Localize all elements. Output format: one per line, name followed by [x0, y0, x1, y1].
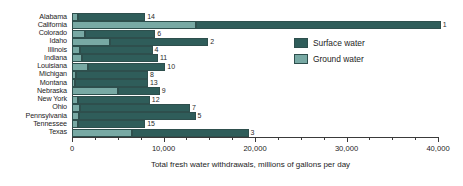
- legend-item-ground-water: Ground water: [294, 52, 424, 65]
- x-tick-major: [72, 137, 73, 142]
- x-tick-minor: [95, 137, 96, 140]
- legend-swatch-ground-water-icon: [294, 54, 308, 64]
- x-tick-minor: [141, 137, 142, 140]
- bar-value-label: 3: [249, 128, 255, 137]
- x-tick-minor: [186, 137, 187, 140]
- plot-area: 141624111081391275153: [72, 13, 438, 137]
- bar-value-label: 14: [145, 12, 155, 21]
- bar-segment-surface-water: [196, 21, 440, 29]
- x-tick-minor: [209, 137, 210, 140]
- bar-value-label: 6: [155, 29, 161, 38]
- bar-value-label: 13: [148, 78, 158, 87]
- bar-segment-surface-water: [78, 96, 149, 104]
- x-tick-minor: [232, 137, 233, 140]
- bar-segment-surface-water: [132, 129, 248, 137]
- x-tick-label: 40,000: [426, 144, 449, 153]
- category-axis-labels: AlabamaCaliforniaColoradoIdahoIllinoisIn…: [0, 13, 70, 137]
- bar-segment-ground-water: [72, 38, 110, 46]
- bar-segment-ground-water: [72, 129, 132, 137]
- bar-value-label: 9: [160, 86, 166, 95]
- x-tick-minor: [392, 137, 393, 140]
- x-tick-label: 10,000: [152, 144, 175, 153]
- bar-segment-ground-water: [72, 104, 80, 112]
- x-tick-major: [255, 137, 256, 142]
- legend-swatch-surface-water-icon: [294, 38, 308, 48]
- bar-segment-surface-water: [78, 13, 145, 21]
- bar-value-label: 5: [196, 111, 202, 120]
- bar-segment-surface-water: [82, 54, 158, 62]
- x-tick-major: [164, 137, 165, 142]
- bar-value-label: 2: [208, 37, 214, 46]
- bar-value-label: 12: [150, 95, 160, 104]
- x-tick-major: [438, 137, 439, 142]
- bar-segment-surface-water: [80, 104, 190, 112]
- legend-item-surface-water: Surface water: [294, 36, 424, 49]
- bar-segment-surface-water: [85, 30, 155, 38]
- x-axis-title: Total fresh water withdrawals, millions …: [0, 160, 463, 169]
- x-tick-minor: [278, 137, 279, 140]
- bar-segment-ground-water: [72, 30, 85, 38]
- category-label: Texas: [49, 128, 67, 136]
- legend-label-ground-water: Ground water: [313, 54, 364, 64]
- bar-segment-ground-water: [72, 112, 79, 120]
- bar-value-label: 15: [145, 119, 155, 128]
- chart-legend: Surface water Ground water: [294, 36, 424, 68]
- x-tick-major: [347, 137, 348, 142]
- bar-value-label: 10: [165, 62, 175, 71]
- x-axis-title-text: Total fresh water withdrawals, millions …: [113, 160, 350, 169]
- bar-segment-ground-water: [72, 54, 82, 62]
- bar-segment-surface-water: [76, 71, 148, 79]
- x-tick-label: 30,000: [335, 144, 358, 153]
- bar-segment-surface-water: [79, 112, 195, 120]
- x-tick-label: 20,000: [243, 144, 266, 153]
- x-tick-label: 0: [70, 144, 74, 153]
- bar-segment-ground-water: [72, 21, 196, 29]
- water-withdrawals-bar-chart: AlabamaCaliforniaColoradoIdahoIllinoisIn…: [0, 0, 463, 186]
- bar-segment-ground-water: [72, 87, 118, 95]
- x-tick-minor: [369, 137, 370, 140]
- legend-label-surface-water: Surface water: [313, 38, 365, 48]
- bar-value-label: 1: [441, 20, 447, 29]
- bar-segment-ground-water: [72, 46, 80, 54]
- bar-segment-ground-water: [72, 63, 88, 71]
- bar-segment-surface-water: [78, 120, 145, 128]
- bar-segment-surface-water: [110, 38, 208, 46]
- bar-segment-surface-water: [75, 79, 148, 87]
- x-tick-minor: [415, 137, 416, 140]
- x-tick-minor: [324, 137, 325, 140]
- x-tick-minor: [301, 137, 302, 140]
- x-tick-minor: [118, 137, 119, 140]
- bar-segment-surface-water: [80, 46, 152, 54]
